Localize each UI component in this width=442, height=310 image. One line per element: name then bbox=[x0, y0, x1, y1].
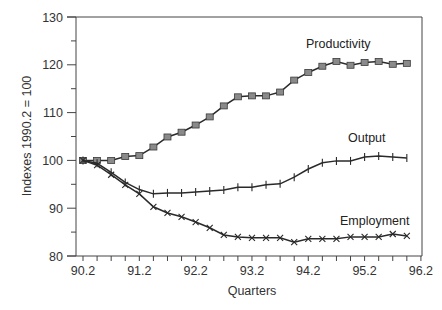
y-axis-title: Indexes 1990.2 = 100 bbox=[20, 76, 34, 197]
square-marker-icon bbox=[206, 114, 213, 120]
x-tick-label: 92.2 bbox=[183, 264, 207, 278]
square-marker-icon bbox=[122, 154, 129, 160]
label-output: Output bbox=[348, 131, 386, 145]
square-marker-icon bbox=[136, 153, 143, 159]
x-tick-label: 91.2 bbox=[127, 264, 151, 278]
square-marker-icon bbox=[361, 59, 368, 65]
square-marker-icon bbox=[108, 157, 115, 163]
x-marker-icon bbox=[207, 225, 213, 231]
square-marker-icon bbox=[263, 93, 270, 99]
square-marker-icon bbox=[248, 93, 255, 99]
square-marker-icon bbox=[291, 77, 298, 83]
y-tick-label: 130 bbox=[42, 11, 63, 25]
x-axis: 90.291.292.293.294.295.296.2 bbox=[67, 256, 433, 278]
square-marker-icon bbox=[150, 144, 157, 150]
series-productivity bbox=[80, 58, 411, 163]
y-tick-label: 100 bbox=[42, 154, 63, 168]
y-tick-label: 110 bbox=[43, 106, 63, 120]
label-employment: Employment bbox=[340, 214, 410, 228]
square-marker-icon bbox=[305, 69, 312, 75]
square-marker-icon bbox=[319, 63, 326, 69]
label-productivity: Productivity bbox=[306, 37, 371, 51]
x-axis-title: Quarters bbox=[228, 284, 277, 298]
square-marker-icon bbox=[220, 103, 227, 109]
y-axis: 8090100110120130 bbox=[42, 11, 76, 264]
y-tick-label: 120 bbox=[42, 58, 63, 72]
x-tick-label: 90.2 bbox=[71, 264, 95, 278]
y-tick-label: 80 bbox=[49, 250, 63, 264]
square-marker-icon bbox=[192, 122, 199, 128]
square-marker-icon bbox=[333, 58, 340, 64]
square-marker-icon bbox=[234, 94, 241, 100]
y-tick-label: 90 bbox=[49, 202, 63, 216]
series-employment bbox=[80, 157, 410, 245]
x-tick-label: 93.2 bbox=[240, 264, 264, 278]
x-tick-label: 95.2 bbox=[352, 264, 376, 278]
x-tick-label: 94.2 bbox=[296, 264, 320, 278]
square-marker-icon bbox=[178, 129, 185, 135]
square-marker-icon bbox=[403, 60, 410, 66]
square-marker-icon bbox=[375, 58, 382, 64]
series-output bbox=[83, 152, 407, 198]
square-marker-icon bbox=[347, 62, 354, 68]
x-marker-icon bbox=[150, 204, 156, 210]
square-marker-icon bbox=[389, 61, 396, 67]
line-chart: 8090100110120130 90.291.292.293.294.295.… bbox=[0, 0, 442, 310]
x-tick-label: 96.2 bbox=[409, 264, 433, 278]
square-marker-icon bbox=[277, 89, 284, 95]
square-marker-icon bbox=[164, 134, 171, 140]
